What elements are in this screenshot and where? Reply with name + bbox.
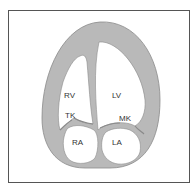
heart-diagram: RV LV TK MK RA LA — [0, 0, 193, 192]
label-rv: RV — [64, 91, 76, 100]
label-ra: RA — [72, 138, 84, 147]
label-tk: TK — [65, 111, 76, 120]
label-la: LA — [112, 138, 122, 147]
label-lv: LV — [112, 91, 122, 100]
label-mk: MK — [119, 114, 132, 123]
